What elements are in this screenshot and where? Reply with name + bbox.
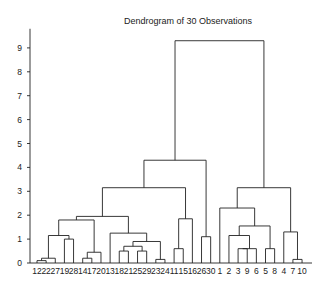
leaf-label: 3 [236, 266, 241, 276]
leaf-labels: 1222271928141720131821252923241115162630… [32, 266, 307, 276]
y-tick-label: 4 [17, 162, 22, 172]
chart-title: Dendrogram of 30 Observations [124, 16, 253, 26]
y-tick-label: 3 [17, 186, 22, 196]
leaf-label: 24 [160, 266, 170, 276]
y-axis: 0123456789 [17, 29, 312, 268]
dendrogram-chart: Dendrogram of 30 Observations 0123456789… [0, 0, 333, 295]
y-tick-label: 2 [17, 210, 22, 220]
leaf-label: 8 [272, 266, 277, 276]
y-tick-label: 0 [17, 258, 22, 268]
merge-link [243, 249, 257, 263]
merge-link [156, 259, 165, 263]
y-tick-label: 8 [17, 67, 22, 77]
y-tick-label: 7 [17, 91, 22, 101]
merge-link [266, 249, 275, 263]
merge-link [87, 252, 101, 263]
dendrogram-tree [37, 41, 302, 263]
merge-link [64, 239, 73, 263]
merge-link [202, 237, 211, 263]
merge-link [76, 216, 128, 233]
merge-link [237, 188, 290, 232]
leaf-label: 2 [227, 266, 232, 276]
leaf-label: 6 [254, 266, 259, 276]
leaf-label: 1 [217, 266, 222, 276]
leaf-label: 5 [263, 266, 268, 276]
merge-link [293, 259, 302, 263]
y-tick-label: 6 [17, 115, 22, 125]
merge-link [179, 219, 193, 263]
merge-link [174, 249, 183, 263]
merge-link [102, 188, 185, 219]
merge-link [239, 226, 270, 249]
merge-link [138, 251, 147, 263]
merge-link [284, 232, 298, 263]
leaf-label: 30 [206, 266, 216, 276]
leaf-label: 11 [170, 266, 179, 276]
y-tick-label: 9 [17, 43, 22, 53]
merge-link [175, 41, 264, 188]
merge-link [124, 246, 142, 251]
leaf-label: 9 [245, 266, 250, 276]
merge-link [229, 236, 250, 263]
leaf-label: 4 [281, 266, 286, 276]
leaf-label: 10 [297, 266, 307, 276]
y-tick-label: 1 [17, 234, 22, 244]
merge-link [83, 258, 92, 263]
merge-link [119, 251, 128, 263]
merge-link [238, 249, 247, 263]
merge-link [144, 160, 206, 236]
y-tick-label: 5 [17, 139, 22, 149]
leaf-label: 7 [291, 266, 296, 276]
